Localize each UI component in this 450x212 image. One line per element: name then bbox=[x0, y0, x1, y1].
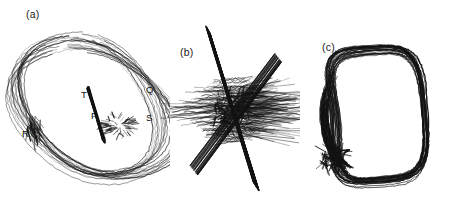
panel-a-drawing bbox=[0, 0, 170, 212]
panel-caption-a: (a) bbox=[26, 8, 39, 20]
panel-a bbox=[0, 0, 170, 212]
figure-container: (a) (b) (c) T Q P S R bbox=[0, 0, 450, 212]
panel-caption-c: (c) bbox=[322, 41, 335, 53]
point-label-p: P bbox=[91, 111, 97, 121]
point-label-q: Q bbox=[146, 85, 153, 95]
point-label-r: R bbox=[22, 129, 29, 139]
point-label-t: T bbox=[81, 90, 87, 100]
point-label-s: S bbox=[146, 113, 152, 123]
panel-c-drawing bbox=[300, 0, 450, 212]
panel-caption-b: (b) bbox=[180, 46, 193, 58]
panel-c bbox=[300, 0, 450, 212]
panel-b bbox=[160, 0, 300, 212]
panel-b-drawing bbox=[160, 0, 300, 212]
